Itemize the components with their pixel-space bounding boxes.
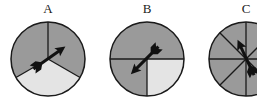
spinner-c xyxy=(209,22,257,96)
spinner-a xyxy=(11,22,85,96)
spinners-diagram xyxy=(0,0,257,106)
spinner-b xyxy=(110,22,184,96)
